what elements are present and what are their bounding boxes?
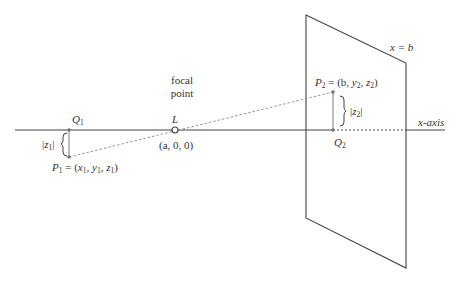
q2-name: Q [334,136,342,148]
p1-name: P [52,161,59,173]
point-q2 [331,128,335,132]
q1-name: Q [72,113,80,125]
z1-bar-close: | [52,138,54,150]
focal-caption-line2: point [162,88,202,99]
focal-point-l [172,127,178,133]
focal-point-coords: (a, 0, 0) [159,140,193,151]
p1-s3: 1 [110,166,114,175]
diagram-canvas: focal point L (a, 0, 0) Q1 |z1| P1 = (x1… [0,0,458,285]
z2-bar-close: | [360,105,362,117]
brace-z1 [61,133,67,156]
p1-eq: = ( [62,161,77,173]
focal-caption: focal point [162,75,202,99]
q1-sub: 1 [80,118,84,127]
focal-caption-line1: focal [162,75,202,86]
point-p1 [67,155,71,159]
z2-distance-label: |z2| [350,106,362,119]
plane-label: x = b [390,42,413,53]
p1-s1: 1 [83,166,87,175]
p2-name: P [315,76,322,88]
point-q1 [67,128,71,132]
q2-label: Q2 [334,137,346,150]
brace-z2 [340,96,346,126]
q1-label: Q1 [72,114,84,127]
p2-label: P2 = (b, y2, z2) [315,77,378,90]
z1-distance-label: |z1| [42,139,54,152]
point-p2 [331,90,335,94]
projection-ray [69,92,333,157]
x-axis-label: x-axis [418,117,444,128]
p2-eq: = (b, [325,76,351,88]
p1-label: P1 = (x1, y1, z1) [52,162,118,175]
p1-s2: 1 [97,166,101,175]
q2-sub: 2 [342,141,346,150]
focal-point-label: L [172,114,178,125]
p2-s2: 2 [357,81,361,90]
p2-s3: 2 [370,81,374,90]
focal-coords-text: (a, 0, 0) [159,139,193,151]
